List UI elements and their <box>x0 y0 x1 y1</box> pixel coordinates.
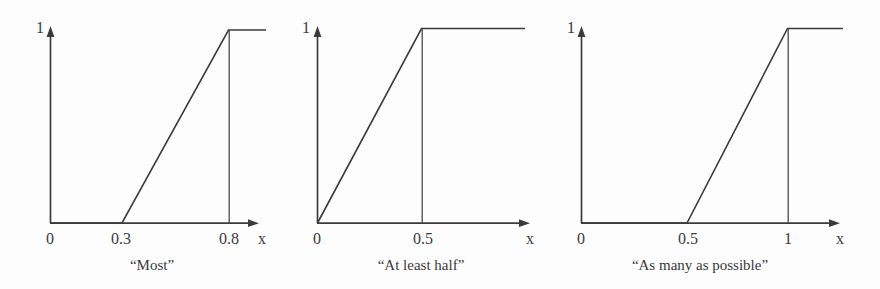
y-axis-arrow-icon-most <box>47 26 55 37</box>
chart-caption-as-many-as-possible: “As many as possible” <box>632 258 768 273</box>
chart-plot-most <box>0 0 293 289</box>
membership-curve-as-many-as-possible <box>582 29 844 224</box>
y-tick-label-1-at-least-half: 1 <box>302 20 310 36</box>
chart-plot-as-many-as-possible <box>560 0 880 289</box>
x-axis-name-most: x <box>258 231 266 247</box>
chart-caption-at-least-half: “At least half” <box>378 258 465 273</box>
y-axis-arrow-icon-as-many-as-possible <box>578 26 586 37</box>
x-axis-arrow-icon-at-least-half <box>519 219 530 227</box>
x-tick-label-0-8-most: 0.8 <box>219 231 239 247</box>
y-tick-label-1-most: 1 <box>36 20 44 36</box>
chart-panel-at-least-half: 1 0 0.5 x “At least half” <box>293 0 560 289</box>
membership-curve-at-least-half <box>318 29 526 224</box>
chart-caption-most: “Most” <box>130 258 174 273</box>
x-tick-label-0-at-least-half: 0 <box>313 231 321 247</box>
chart-panel-most: 1 0 0.3 0.8 x “Most” <box>0 0 293 289</box>
x-tick-label-1-as-many-as-possible: 1 <box>784 231 792 247</box>
x-tick-label-0-5-at-least-half: 0.5 <box>413 231 433 247</box>
x-tick-label-0-3-most: 0.3 <box>111 231 131 247</box>
x-axis-name-as-many-as-possible: x <box>836 231 844 247</box>
y-axis-arrow-icon-at-least-half <box>314 26 322 37</box>
x-tick-label-0-as-many-as-possible: 0 <box>577 231 585 247</box>
x-axis-name-at-least-half: x <box>526 231 534 247</box>
chart-panel-as-many-as-possible: 1 0 0.5 1 x “As many as possible” <box>560 0 880 289</box>
x-tick-label-0-5-as-many-as-possible: 0.5 <box>678 231 698 247</box>
x-tick-label-0-most: 0 <box>46 231 54 247</box>
x-axis-arrow-icon-most <box>248 219 259 227</box>
membership-curve-most <box>51 30 267 223</box>
y-tick-label-1-as-many-as-possible: 1 <box>567 20 575 36</box>
fuzzy-quantifier-figure: 1 0 0.3 0.8 x “Most” 1 0 0.5 x “At least… <box>0 0 880 289</box>
x-axis-arrow-icon-as-many-as-possible <box>829 219 840 227</box>
